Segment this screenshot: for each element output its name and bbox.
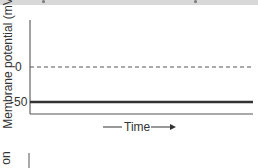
second-panel-y-label: on — [0, 151, 13, 164]
plot-area — [0, 0, 258, 168]
arrow-right-icon — [170, 124, 176, 130]
x-axis-label: Time — [124, 120, 150, 134]
